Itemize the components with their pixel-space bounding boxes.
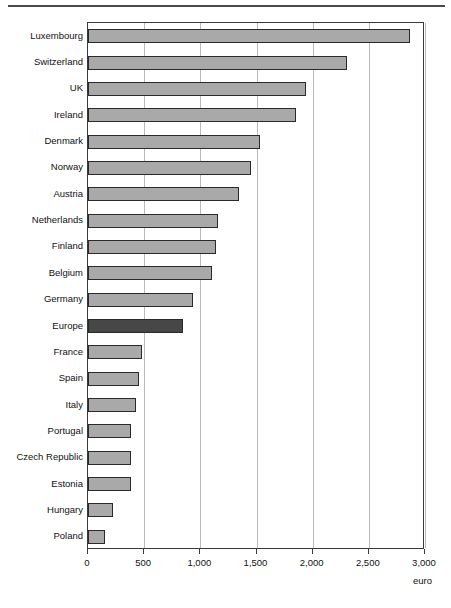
- x-tick-2000: [312, 549, 313, 554]
- category-label-france: France: [0, 346, 83, 357]
- bar-row: [88, 212, 423, 230]
- x-axis-label-3000: 3,000: [412, 557, 436, 568]
- bar-austria: [88, 187, 239, 201]
- x-tick-500: [143, 549, 144, 554]
- category-axis-labels: LuxembourgSwitzerlandUKIrelandDenmarkNor…: [0, 22, 83, 549]
- x-axis-label-1000: 1,000: [187, 557, 211, 568]
- x-tick-3000: [424, 549, 425, 554]
- bar-row: [88, 422, 423, 440]
- x-tick-1000: [199, 549, 200, 554]
- bar-row: [88, 291, 423, 309]
- bar-belgium: [88, 266, 212, 280]
- category-label-finland: Finland: [0, 240, 83, 251]
- bar-hungary: [88, 503, 113, 517]
- bar-uk: [88, 82, 306, 96]
- bar-poland: [88, 530, 105, 544]
- bar-row: [88, 475, 423, 493]
- bar-row: [88, 80, 423, 98]
- category-label-belgium: Belgium: [0, 267, 83, 278]
- gridline-3000: [425, 23, 426, 548]
- bar-row: [88, 370, 423, 388]
- bar-czech-republic: [88, 451, 131, 465]
- bar-denmark: [88, 135, 260, 149]
- x-tick-0: [87, 549, 88, 554]
- bar-france: [88, 345, 142, 359]
- bar-italy: [88, 398, 136, 412]
- category-label-switzerland: Switzerland: [0, 56, 83, 67]
- category-label-luxembourg: Luxembourg: [0, 30, 83, 41]
- bar-chart-figure: LuxembourgSwitzerlandUKIrelandDenmarkNor…: [0, 0, 451, 608]
- bars-container: [88, 23, 423, 548]
- category-label-czech-republic: Czech Republic: [0, 451, 83, 462]
- bar-row: [88, 343, 423, 361]
- bar-row: [88, 264, 423, 282]
- bar-norway: [88, 161, 251, 175]
- bar-europe: [88, 319, 183, 333]
- category-label-germany: Germany: [0, 293, 83, 304]
- bar-row: [88, 396, 423, 414]
- chart-page: LuxembourgSwitzerlandUKIrelandDenmarkNor…: [0, 0, 451, 608]
- bar-row: [88, 449, 423, 467]
- category-label-portugal: Portugal: [0, 425, 83, 436]
- bar-row: [88, 528, 423, 546]
- bar-luxembourg: [88, 29, 410, 43]
- bar-row: [88, 133, 423, 151]
- plot-area: [87, 22, 424, 549]
- x-axis-label-500: 500: [135, 557, 151, 568]
- axis-unit-label: euro: [0, 575, 432, 586]
- bar-portugal: [88, 424, 131, 438]
- category-label-poland: Poland: [0, 530, 83, 541]
- bar-row: [88, 501, 423, 519]
- category-label-norway: Norway: [0, 161, 83, 172]
- category-label-denmark: Denmark: [0, 135, 83, 146]
- x-axis-label-0: 0: [84, 557, 89, 568]
- bar-finland: [88, 240, 216, 254]
- x-axis-label-2500: 2,500: [356, 557, 380, 568]
- category-label-europe: Europe: [0, 320, 83, 331]
- bar-estonia: [88, 477, 131, 491]
- category-label-italy: Italy: [0, 399, 83, 410]
- x-tick-1500: [256, 549, 257, 554]
- bar-switzerland: [88, 56, 347, 70]
- bar-row: [88, 185, 423, 203]
- bar-spain: [88, 372, 139, 386]
- bar-row: [88, 317, 423, 335]
- x-tick-2500: [368, 549, 369, 554]
- bar-row: [88, 159, 423, 177]
- category-label-uk: UK: [0, 82, 83, 93]
- bar-ireland: [88, 108, 296, 122]
- bar-row: [88, 106, 423, 124]
- x-axis-label-1500: 1,500: [244, 557, 268, 568]
- category-label-spain: Spain: [0, 372, 83, 383]
- category-label-ireland: Ireland: [0, 109, 83, 120]
- category-label-hungary: Hungary: [0, 504, 83, 515]
- bar-netherlands: [88, 214, 218, 228]
- bar-germany: [88, 293, 193, 307]
- bar-row: [88, 27, 423, 45]
- category-label-estonia: Estonia: [0, 478, 83, 489]
- x-axis-label-2000: 2,000: [300, 557, 324, 568]
- category-label-netherlands: Netherlands: [0, 214, 83, 225]
- category-label-austria: Austria: [0, 188, 83, 199]
- bar-row: [88, 54, 423, 72]
- bar-row: [88, 238, 423, 256]
